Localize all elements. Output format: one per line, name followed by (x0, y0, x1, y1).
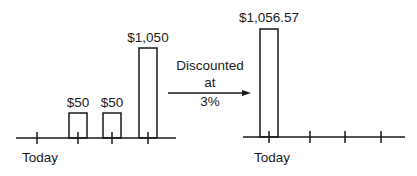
present-value-label: $1,056.57 (239, 10, 299, 25)
arrow-label-line2: at (204, 75, 216, 90)
cash-flow-label-1: $50 (67, 95, 90, 110)
left-axis-label-today: Today (22, 150, 58, 165)
left-timeline: $50 $50 $1,050 Today (16, 30, 176, 165)
arrow-label-line1: Discounted (176, 58, 244, 73)
arrow-label-line3: 3% (200, 94, 220, 109)
arrow-head-icon (242, 90, 251, 96)
cash-flow-label-2: $50 (101, 95, 124, 110)
cash-flow-bar-3 (139, 48, 157, 138)
right-axis-label-today: Today (254, 150, 290, 165)
cash-flow-label-3: $1,050 (127, 30, 168, 45)
right-timeline: $1,056.57 Today (239, 10, 405, 165)
present-value-bar (260, 29, 278, 137)
discount-arrow: Discounted at 3% (168, 58, 251, 109)
discounting-diagram: $50 $50 $1,050 Today Discounted at 3% $1… (0, 0, 417, 176)
